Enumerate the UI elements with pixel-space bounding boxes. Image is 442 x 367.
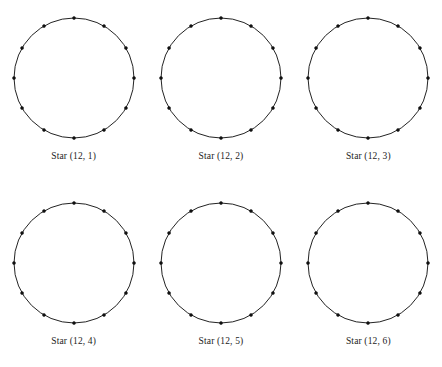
star-vertex-dot xyxy=(72,201,75,204)
star-vertex-dot xyxy=(189,128,192,131)
star-vertex-dot xyxy=(72,17,75,20)
star-vertex-dot xyxy=(72,321,75,324)
star-vertex-dot xyxy=(124,47,127,50)
star-vertex-dot xyxy=(367,17,370,20)
star-vertex-dot xyxy=(124,231,127,234)
star-vertex-dot xyxy=(132,261,135,264)
star-vertex-dot xyxy=(168,291,171,294)
star-vertex-dot xyxy=(42,209,45,212)
star-vertex-dot xyxy=(271,107,274,110)
star-vertex-dot xyxy=(419,231,422,234)
star-vertex-dot xyxy=(132,77,135,80)
star-figure: Star (12, 5) xyxy=(147,184,294,367)
star-diagram xyxy=(155,12,287,144)
star-vertex-dot xyxy=(20,291,23,294)
star-vertex-dot xyxy=(168,47,171,50)
circumcircle xyxy=(308,18,428,138)
star-vertex-dot xyxy=(102,209,105,212)
star-vertex-dot xyxy=(189,209,192,212)
star-figure-label: Star (12, 1) xyxy=(51,151,96,161)
star-vertex-dot xyxy=(315,107,318,110)
star-vertex-dot xyxy=(20,231,23,234)
star-vertex-dot xyxy=(397,128,400,131)
star-vertex-dot xyxy=(102,128,105,131)
star-vertex-dot xyxy=(271,291,274,294)
star-vertex-dot xyxy=(427,261,430,264)
star-vertex-dot xyxy=(271,47,274,50)
star-vertex-dot xyxy=(337,25,340,28)
star-vertex-dot xyxy=(20,107,23,110)
star-vertex-dot xyxy=(315,47,318,50)
star-vertex-dot xyxy=(102,25,105,28)
star-vertex-dot xyxy=(249,128,252,131)
star-vertex-dot xyxy=(124,291,127,294)
star-vertex-dot xyxy=(367,137,370,140)
star-vertex-dot xyxy=(397,25,400,28)
star-vertex-dot xyxy=(124,107,127,110)
star-figure: Star (12, 3) xyxy=(295,0,442,184)
star-diagram xyxy=(8,197,140,329)
star-vertex-dot xyxy=(367,321,370,324)
star-vertex-dot xyxy=(315,231,318,234)
star-vertex-dot xyxy=(42,128,45,131)
star-vertex-dot xyxy=(397,209,400,212)
star-vertex-dot xyxy=(279,77,282,80)
star-vertex-dot xyxy=(159,77,162,80)
star-svg xyxy=(302,12,434,144)
star-figure: Star (12, 6) xyxy=(295,184,442,367)
star-vertex-dot xyxy=(219,201,222,204)
star-vertex-dot xyxy=(42,25,45,28)
star-vertex-dot xyxy=(427,77,430,80)
circumcircle xyxy=(161,18,281,138)
star-svg xyxy=(302,197,434,329)
star-svg xyxy=(155,197,287,329)
star-figure-label: Star (12, 4) xyxy=(51,336,96,346)
circumcircle xyxy=(14,203,134,323)
star-vertex-dot xyxy=(367,201,370,204)
star-diagram xyxy=(302,197,434,329)
circumcircle xyxy=(308,203,428,323)
star-svg xyxy=(8,197,140,329)
star-figure-label: Star (12, 6) xyxy=(346,336,391,346)
star-vertex-dot xyxy=(307,261,310,264)
star-vertex-dot xyxy=(219,137,222,140)
star-figure: Star (12, 1) xyxy=(0,0,147,184)
star-diagram xyxy=(302,12,434,144)
star-vertex-dot xyxy=(72,137,75,140)
star-vertex-dot xyxy=(102,313,105,316)
star-figure: Star (12, 4) xyxy=(0,184,147,367)
star-vertex-dot xyxy=(12,77,15,80)
star-diagram xyxy=(155,197,287,329)
star-vertex-dot xyxy=(168,107,171,110)
star-vertex-dot xyxy=(189,313,192,316)
star-figure-label: Star (12, 3) xyxy=(346,151,391,161)
star-vertex-dot xyxy=(159,261,162,264)
circumcircle xyxy=(14,18,134,138)
star-vertex-dot xyxy=(12,261,15,264)
circumcircle xyxy=(161,203,281,323)
star-svg xyxy=(155,12,287,144)
star-vertex-dot xyxy=(337,313,340,316)
star-vertex-dot xyxy=(189,25,192,28)
star-vertex-dot xyxy=(20,47,23,50)
star-figure: Star (12, 2) xyxy=(147,0,294,184)
star-vertex-dot xyxy=(337,209,340,212)
star-figure-label: Star (12, 5) xyxy=(199,336,244,346)
star-vertex-dot xyxy=(419,107,422,110)
star-vertex-dot xyxy=(219,17,222,20)
star-vertex-dot xyxy=(249,209,252,212)
star-vertex-dot xyxy=(249,313,252,316)
star-vertex-dot xyxy=(315,291,318,294)
star-vertex-dot xyxy=(419,47,422,50)
star-vertex-dot xyxy=(271,231,274,234)
star-vertex-dot xyxy=(42,313,45,316)
star-vertex-dot xyxy=(307,77,310,80)
star-vertex-dot xyxy=(337,128,340,131)
star-diagram xyxy=(8,12,140,144)
star-svg xyxy=(8,12,140,144)
star-vertex-dot xyxy=(168,231,171,234)
star-vertex-dot xyxy=(419,291,422,294)
star-vertex-dot xyxy=(279,261,282,264)
star-figure-label: Star (12, 2) xyxy=(199,151,244,161)
star-vertex-dot xyxy=(249,25,252,28)
